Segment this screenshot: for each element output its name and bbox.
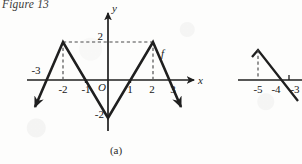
y-axis-label: y	[111, 2, 117, 14]
function-label-f: f	[161, 47, 166, 59]
x-tick-label-minus-3: -3	[31, 64, 41, 76]
x-axis-label: x	[197, 74, 203, 86]
x-tick-label-minus-2: -2	[58, 83, 67, 95]
y-tick-label-2: 2	[98, 30, 104, 42]
origin-label: O	[98, 81, 106, 93]
x-tick-label-2: 2	[149, 83, 155, 95]
inset-x-tick-label-minus-5: -5	[253, 83, 263, 95]
figure-page: Figure 13	[0, 0, 302, 164]
x-tick-label-minus-1: -1	[81, 83, 90, 95]
main-graph-svg: x y O -3 -2 -1 1 2 3 2 -2 f -5 -4 -3	[0, 0, 302, 164]
x-tick-label-1: 1	[127, 83, 133, 95]
x-tick-label-3: 3	[170, 83, 176, 95]
inset-x-tick-label-minus-4: -4	[271, 83, 281, 95]
inset-x-tick-label-minus-3: -3	[290, 83, 300, 95]
panel-caption: (a)	[0, 144, 232, 156]
y-tick-label-minus-2: -2	[95, 108, 104, 120]
inset-fragment: -5 -4 -3	[238, 50, 302, 101]
